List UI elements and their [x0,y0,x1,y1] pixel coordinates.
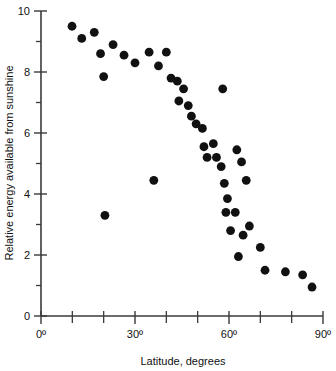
data-point [109,40,118,49]
data-point [187,112,196,121]
x-tick-label-30: 30º [127,328,143,340]
data-point [226,226,235,235]
y-tick-label-10: 10 [18,5,30,17]
y-axis-title: Relative energy available from sunshine [3,65,15,260]
y-tick-label-0: 0 [24,310,30,322]
data-point [96,49,105,58]
data-point [239,231,248,240]
data-point [217,162,226,171]
data-point [218,84,227,93]
data-point [203,153,212,162]
data-point [90,28,99,37]
x-tick-label-90: 90º [315,328,331,340]
data-point [120,51,129,60]
data-point [99,72,108,81]
data-point [149,176,158,185]
data-point [234,252,243,261]
data-point [237,158,246,167]
data-point [221,208,230,217]
data-point [298,270,307,279]
x-tick-label-60: 60º [221,328,237,340]
y-tick-label-8: 8 [24,66,30,78]
data-point [242,176,251,185]
x-tick-label-0: 0º [36,328,46,340]
data-point [101,211,110,220]
data-point [198,124,207,133]
data-point [212,153,221,162]
data-point [200,142,209,151]
data-point [220,179,229,188]
data-point [231,208,240,217]
y-tick-label-2: 2 [24,249,30,261]
data-point [131,58,140,67]
data-point [154,62,163,71]
chart-canvas: 0246810 0º30º60º90º Latitude, degrees Re… [0,0,336,371]
data-point [145,48,154,57]
y-tick-label-6: 6 [24,127,30,139]
data-point [173,77,182,86]
data-point [184,101,193,110]
data-point [68,22,77,31]
y-tick-label-4: 4 [24,188,30,200]
data-point [308,283,317,292]
data-point [256,243,265,252]
data-point [245,222,254,231]
x-axis-title: Latitude, degrees [140,355,226,367]
data-point [209,139,218,148]
data-point [232,145,241,154]
data-point [179,84,188,93]
scatter-plot-figure: 0246810 0º30º60º90º Latitude, degrees Re… [0,0,336,371]
data-point [223,194,232,203]
data-point [174,97,183,106]
data-point [162,48,171,57]
data-point [261,266,270,275]
data-point [77,34,86,43]
data-point [281,267,290,276]
